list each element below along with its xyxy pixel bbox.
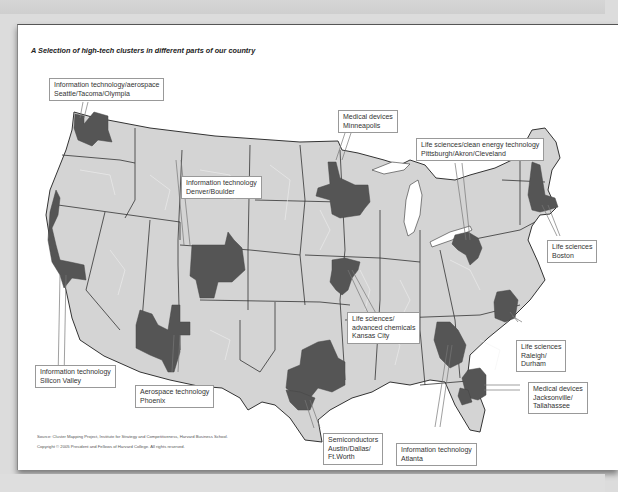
callout-boston: Life sciences Boston bbox=[547, 240, 597, 263]
callout-location-2: Ft.Worth bbox=[328, 453, 378, 462]
callout-industry: Life sciences/clean energy technology bbox=[421, 141, 539, 150]
copyright-line: Copyright © 2005 President and Fellows o… bbox=[37, 442, 228, 452]
callout-location: Kansas City bbox=[352, 332, 415, 341]
callout-industry: Information technology bbox=[401, 446, 472, 455]
callout-location: Boston bbox=[552, 252, 592, 261]
callout-location: Atlanta bbox=[401, 455, 472, 464]
callout-industry: Life sciences/ bbox=[352, 315, 415, 324]
callout-location: Raleigh/ bbox=[521, 352, 561, 361]
callout-industry: Semiconductors bbox=[328, 436, 378, 445]
callout-industry: Life sciences bbox=[552, 243, 592, 252]
callout-industry: Medical devices bbox=[343, 113, 393, 122]
callout-austin: Semiconductors Austin/Dallas/ Ft.Worth bbox=[323, 433, 383, 465]
callout-industry: Information technology bbox=[40, 368, 111, 377]
callout-location: Pittsburgh/Akron/Cleveland bbox=[421, 150, 539, 159]
callout-location: Silicon Valley bbox=[40, 377, 111, 386]
callout-location: Austin/Dallas/ bbox=[328, 445, 378, 454]
callout-silicon-valley: Information technology Silicon Valley bbox=[35, 365, 116, 388]
callout-location-2: Tallahassee bbox=[533, 402, 583, 411]
callout-location: Minneapolis bbox=[343, 122, 393, 131]
callout-raleigh: Life sciences Raleigh/ Durham bbox=[516, 340, 566, 372]
callout-kansas-city: Life sciences/ advanced chemicals Kansas… bbox=[347, 312, 420, 344]
callout-pittsburgh: Life sciences/clean energy technology Pi… bbox=[416, 138, 544, 161]
cluster-seattle bbox=[74, 112, 112, 146]
callout-jacksonville: Medical devices Jacksonville/ Tallahasse… bbox=[528, 382, 588, 414]
callout-industry: Medical devices bbox=[533, 385, 583, 394]
source-line: Source: Cluster Mapping Project, Institu… bbox=[37, 432, 228, 442]
callout-location: Denver/Boulder bbox=[186, 188, 257, 197]
callout-location: Jacksonville/ bbox=[533, 394, 583, 403]
callout-industry: Information technology/aerospace bbox=[54, 81, 159, 90]
callout-industry: Life sciences bbox=[521, 343, 561, 352]
callout-denver: Information technology Denver/Boulder bbox=[181, 176, 262, 199]
callout-location: Seattle/Tacoma/Olympia bbox=[54, 90, 159, 99]
callout-industry: Aerospace technology bbox=[140, 388, 209, 397]
callout-minneapolis: Medical devices Minneapolis bbox=[338, 110, 398, 133]
callout-location-2: Durham bbox=[521, 360, 561, 369]
callout-seattle: Information technology/aerospace Seattle… bbox=[49, 78, 164, 101]
callout-atlanta: Information technology Atlanta bbox=[396, 443, 477, 466]
source-note: Source: Cluster Mapping Project, Institu… bbox=[37, 432, 228, 452]
callout-industry-2: advanced chemicals bbox=[352, 324, 415, 333]
callout-phoenix: Aerospace technology Phoenix bbox=[135, 385, 214, 408]
callout-industry: Information technology bbox=[186, 179, 257, 188]
callout-location: Phoenix bbox=[140, 397, 209, 406]
